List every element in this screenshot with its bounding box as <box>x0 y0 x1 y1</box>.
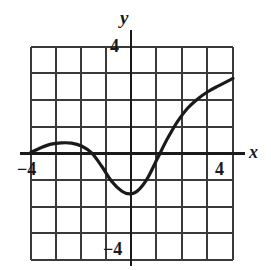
tick-label-x-4: 4 <box>215 160 224 178</box>
x-axis-label: x <box>249 143 258 161</box>
graph-figure: y x 4 −4 −4 4 <box>0 0 271 270</box>
plot-area <box>0 0 271 270</box>
tick-label-x-minus-4: −4 <box>17 160 36 178</box>
y-axis-label: y <box>120 8 128 27</box>
tick-label-y-minus-4: −4 <box>103 240 122 258</box>
tick-label-y-4: 4 <box>110 37 119 55</box>
